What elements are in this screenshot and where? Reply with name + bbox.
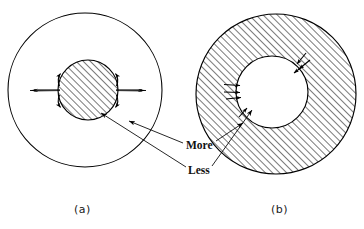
caption-panel-a: (a)	[74, 203, 91, 216]
panel-a	[8, 13, 162, 167]
leader-more-to-panel-a	[129, 121, 183, 143]
leader-less-to-panel-a	[101, 113, 186, 167]
arrow-inward-left-b	[224, 92, 240, 93]
caption-panel-b: (b)	[271, 203, 288, 216]
figure-canvas	[0, 0, 364, 229]
panel-a-inner-hatched-circle	[58, 60, 118, 120]
label-less: Less	[188, 164, 210, 176]
panel-b	[196, 14, 356, 174]
label-more: More	[186, 139, 213, 151]
